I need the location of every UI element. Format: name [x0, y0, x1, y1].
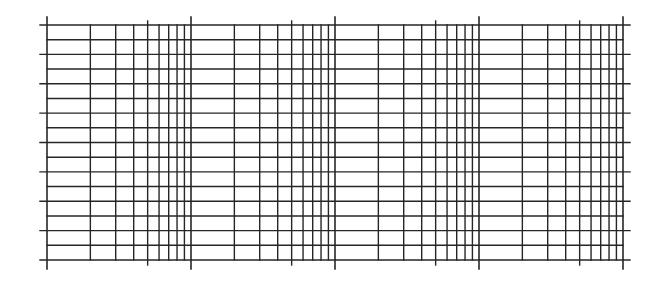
- semi-log-grid: [0, 0, 662, 281]
